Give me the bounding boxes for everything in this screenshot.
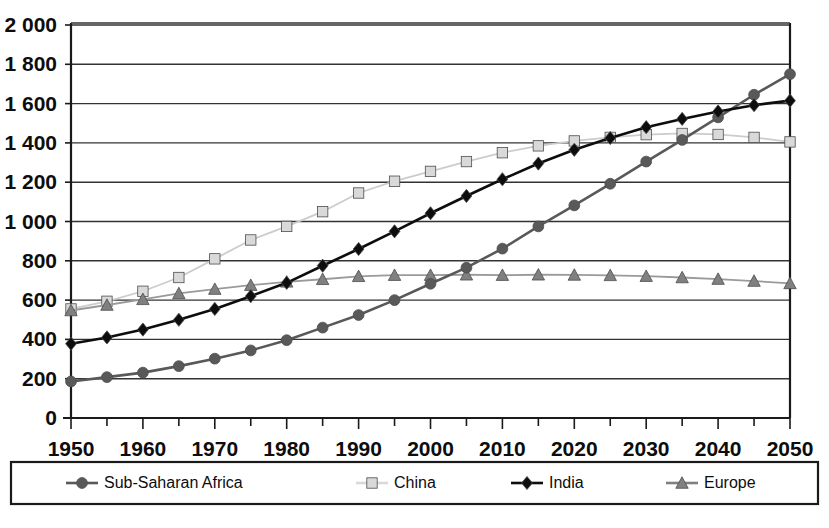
data-point-marker (461, 189, 472, 202)
x-axis-tick-marks (71, 418, 790, 429)
data-point-marker (173, 313, 184, 326)
x-axis-tick-label: 1950 (48, 437, 95, 460)
chart-canvas: 02004006008001 0001 2001 4001 6001 8002 … (0, 0, 829, 528)
y-axis-tick-label: 400 (22, 327, 57, 350)
x-axis-tick-labels: 1950196019701980199020002010202020302040… (48, 437, 814, 460)
legend-item-label: Sub-Saharan Africa (104, 474, 243, 491)
data-point-marker (569, 200, 580, 211)
y-axis-tick-labels: 02004006008001 0001 2001 4001 6001 8002 … (4, 13, 71, 429)
data-point-marker (138, 367, 149, 378)
data-point-marker (749, 132, 759, 142)
x-axis-tick-label: 2030 (623, 437, 670, 460)
y-axis-tick-label: 1 000 (4, 210, 57, 233)
data-point-marker (425, 207, 436, 220)
data-point-marker (785, 137, 795, 147)
data-point-marker (677, 112, 688, 125)
data-point-marker (209, 302, 220, 315)
y-axis-tick-label: 2 000 (4, 13, 57, 36)
data-point-marker (713, 129, 723, 139)
data-point-marker (389, 225, 400, 238)
x-axis-tick-label: 1960 (120, 437, 167, 460)
data-point-marker (281, 335, 292, 346)
data-point-marker (533, 157, 544, 170)
data-point-marker (66, 376, 77, 387)
data-point-marker (102, 331, 113, 344)
x-axis-tick-label: 2040 (695, 437, 742, 460)
data-point-marker (137, 323, 148, 336)
data-point-marker (785, 94, 796, 107)
x-axis-tick-label: 1990 (335, 437, 382, 460)
y-axis-tick-label: 600 (22, 288, 57, 311)
legend-item-label: Europe (704, 474, 756, 491)
data-point-marker (461, 156, 471, 166)
data-point-marker (353, 188, 363, 198)
data-point-marker (210, 254, 220, 264)
data-point-marker (785, 69, 796, 80)
data-point-marker (533, 141, 543, 151)
x-axis-tick-label: 1970 (191, 437, 238, 460)
data-point-marker (641, 156, 652, 167)
data-point-marker (605, 178, 616, 189)
data-point-marker (282, 221, 292, 231)
data-point-marker (749, 99, 760, 112)
data-point-marker (353, 242, 364, 255)
x-axis-tick-label: 2020 (551, 437, 598, 460)
data-point-marker (677, 135, 688, 146)
legend-item-label: China (394, 474, 436, 491)
plot-frame (63, 23, 790, 418)
x-axis-tick-label: 2050 (767, 437, 814, 460)
x-axis-tick-label: 1980 (263, 437, 310, 460)
data-point-marker (533, 221, 544, 232)
data-point-marker (497, 148, 507, 158)
data-point-marker (317, 206, 327, 216)
data-point-marker (425, 166, 435, 176)
chart-legend: Sub-Saharan AfricaChinaIndiaEurope (11, 462, 818, 504)
y-axis-tick-label: 0 (45, 406, 57, 429)
y-axis-tick-label: 800 (22, 249, 57, 272)
data-point-marker (367, 478, 377, 488)
data-point-marker (425, 278, 436, 289)
data-point-marker (497, 243, 508, 254)
y-axis-tick-label: 1 600 (4, 92, 57, 115)
data-point-marker (497, 173, 508, 186)
data-point-marker (246, 235, 256, 245)
y-axis-tick-label: 1 200 (4, 170, 57, 193)
data-point-marker (174, 272, 184, 282)
data-point-marker (173, 361, 184, 372)
data-point-marker (389, 176, 399, 186)
data-point-marker (209, 353, 220, 364)
data-point-marker (353, 310, 364, 321)
x-axis-tick-label: 2000 (407, 437, 454, 460)
y-axis-tick-label: 1 800 (4, 52, 57, 75)
legend-item-label: India (549, 474, 584, 491)
data-point-marker (317, 322, 328, 333)
population-projection-chart: 02004006008001 0001 2001 4001 6001 8002 … (0, 0, 829, 528)
x-axis-tick-label: 2010 (479, 437, 526, 460)
data-point-marker (461, 262, 472, 273)
data-point-marker (102, 372, 113, 383)
data-point-marker (389, 295, 400, 306)
y-axis-tick-label: 1 400 (4, 131, 57, 154)
y-axis-tick-label: 200 (22, 367, 57, 390)
data-point-marker (77, 478, 88, 489)
data-point-marker (245, 345, 256, 356)
